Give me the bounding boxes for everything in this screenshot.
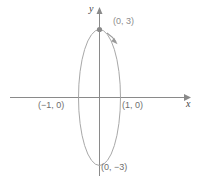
point-label-top: (0, 3) xyxy=(113,17,134,26)
point-label-right: (1, 0) xyxy=(122,101,143,110)
y-axis-arrowhead xyxy=(97,7,103,14)
point-label-left: (−1, 0) xyxy=(38,101,64,110)
ellipse-parametric-plot: y x (0, 3) (−1, 0) (1, 0) (0, −3) xyxy=(0,0,197,183)
x-axis-label: x xyxy=(186,99,190,109)
y-axis-label: y xyxy=(89,4,93,14)
plot-canvas xyxy=(0,0,197,183)
point-marker-top xyxy=(97,27,102,32)
point-label-bottom: (0, −3) xyxy=(101,163,127,172)
